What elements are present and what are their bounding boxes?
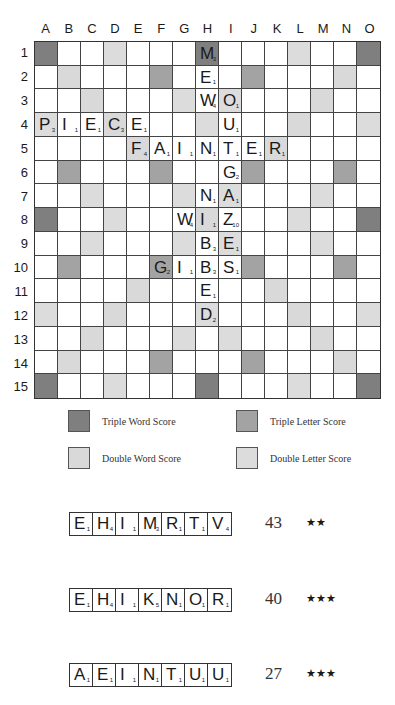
board-cell-m4[interactable] <box>311 113 334 137</box>
board-cell-n2[interactable] <box>334 66 357 90</box>
board-cell-k9[interactable] <box>265 232 288 256</box>
rack-tile[interactable]: M3 <box>139 513 162 535</box>
board-cell-a1[interactable] <box>35 42 58 66</box>
board-cell-g12[interactable] <box>173 303 196 327</box>
board-cell-g7[interactable] <box>173 184 196 208</box>
board-cell-j3[interactable] <box>242 89 265 113</box>
rack-tile[interactable]: E1 <box>70 513 93 535</box>
board-cell-d12[interactable] <box>104 303 127 327</box>
board-cell-e2[interactable] <box>127 66 150 90</box>
board-cell-o13[interactable] <box>357 327 380 351</box>
board-cell-j4[interactable] <box>242 113 265 137</box>
board-cell-a12[interactable] <box>35 303 58 327</box>
board-cell-i8[interactable]: Z10 <box>219 208 242 232</box>
board-cell-o1[interactable] <box>357 42 380 66</box>
board-cell-g4[interactable] <box>173 113 196 137</box>
board-cell-e15[interactable] <box>127 374 150 398</box>
board-cell-g2[interactable] <box>173 66 196 90</box>
board-cell-k15[interactable] <box>265 374 288 398</box>
board-cell-c15[interactable] <box>81 374 104 398</box>
board-cell-j1[interactable] <box>242 42 265 66</box>
board-cell-j6[interactable] <box>242 161 265 185</box>
board-cell-n10[interactable] <box>334 256 357 280</box>
board-cell-f6[interactable] <box>150 161 173 185</box>
board-cell-k6[interactable] <box>265 161 288 185</box>
board-cell-b10[interactable] <box>58 256 81 280</box>
board-cell-m12[interactable] <box>311 303 334 327</box>
board-cell-e1[interactable] <box>127 42 150 66</box>
board-cell-c3[interactable] <box>81 89 104 113</box>
board-cell-b7[interactable] <box>58 184 81 208</box>
board-cell-m5[interactable] <box>311 137 334 161</box>
board-cell-k10[interactable] <box>265 256 288 280</box>
board-cell-e13[interactable] <box>127 327 150 351</box>
board-cell-n11[interactable] <box>334 279 357 303</box>
board-cell-h15[interactable] <box>196 374 219 398</box>
board-cell-i13[interactable] <box>219 327 242 351</box>
rack-tile[interactable]: N1 <box>139 664 162 686</box>
board-cell-m10[interactable] <box>311 256 334 280</box>
board-cell-a13[interactable] <box>35 327 58 351</box>
board-cell-m14[interactable] <box>311 351 334 375</box>
board-cell-a4[interactable]: P3 <box>35 113 58 137</box>
board-cell-j8[interactable] <box>242 208 265 232</box>
board-cell-i6[interactable]: G2 <box>219 161 242 185</box>
board-cell-f2[interactable] <box>150 66 173 90</box>
board-cell-a14[interactable] <box>35 351 58 375</box>
board-cell-m9[interactable] <box>311 232 334 256</box>
board-cell-i15[interactable] <box>219 374 242 398</box>
board-cell-o8[interactable] <box>357 208 380 232</box>
board-cell-b4[interactable]: I1 <box>58 113 81 137</box>
board-cell-a7[interactable] <box>35 184 58 208</box>
board-cell-h6[interactable] <box>196 161 219 185</box>
rack-tile[interactable]: K5 <box>139 589 162 611</box>
board-cell-n13[interactable] <box>334 327 357 351</box>
board-cell-e3[interactable] <box>127 89 150 113</box>
board-cell-b8[interactable] <box>58 208 81 232</box>
board-cell-j9[interactable] <box>242 232 265 256</box>
board-cell-j11[interactable] <box>242 279 265 303</box>
board-cell-c10[interactable] <box>81 256 104 280</box>
board-cell-m6[interactable] <box>311 161 334 185</box>
board-cell-l3[interactable] <box>288 89 311 113</box>
board-cell-e12[interactable] <box>127 303 150 327</box>
board-cell-h5[interactable]: N1 <box>196 137 219 161</box>
board-cell-l5[interactable] <box>288 137 311 161</box>
board-cell-l10[interactable] <box>288 256 311 280</box>
board-cell-h9[interactable]: B3 <box>196 232 219 256</box>
board-cell-l2[interactable] <box>288 66 311 90</box>
board-cell-i11[interactable] <box>219 279 242 303</box>
board-cell-l15[interactable] <box>288 374 311 398</box>
board-cell-f11[interactable] <box>150 279 173 303</box>
board-cell-a6[interactable] <box>35 161 58 185</box>
board-cell-m3[interactable] <box>311 89 334 113</box>
board-cell-o2[interactable] <box>357 66 380 90</box>
board-cell-j2[interactable] <box>242 66 265 90</box>
board-cell-j5[interactable]: E1 <box>242 137 265 161</box>
board-cell-j7[interactable] <box>242 184 265 208</box>
board-cell-e10[interactable] <box>127 256 150 280</box>
board-cell-l6[interactable] <box>288 161 311 185</box>
board-cell-b13[interactable] <box>58 327 81 351</box>
board-cell-a9[interactable] <box>35 232 58 256</box>
board-cell-h14[interactable] <box>196 351 219 375</box>
rack-tile[interactable]: I1 <box>116 664 139 686</box>
board-cell-h2[interactable]: E1 <box>196 66 219 90</box>
board-cell-k14[interactable] <box>265 351 288 375</box>
board-cell-o14[interactable] <box>357 351 380 375</box>
board-cell-e5[interactable]: F4 <box>127 137 150 161</box>
board-cell-c11[interactable] <box>81 279 104 303</box>
board-cell-c6[interactable] <box>81 161 104 185</box>
board-cell-k8[interactable] <box>265 208 288 232</box>
board-cell-h7[interactable]: N1 <box>196 184 219 208</box>
board-cell-i4[interactable]: U1 <box>219 113 242 137</box>
board-cell-e7[interactable] <box>127 184 150 208</box>
board-cell-d15[interactable] <box>104 374 127 398</box>
board-cell-m11[interactable] <box>311 279 334 303</box>
board-cell-i1[interactable] <box>219 42 242 66</box>
board-cell-n1[interactable] <box>334 42 357 66</box>
rack-tile[interactable]: R1 <box>208 589 231 611</box>
board-cell-o6[interactable] <box>357 161 380 185</box>
board-cell-h4[interactable] <box>196 113 219 137</box>
board-cell-b12[interactable] <box>58 303 81 327</box>
